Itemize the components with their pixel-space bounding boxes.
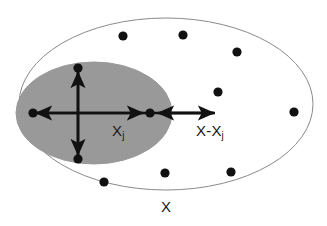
- point-outer-4: [213, 87, 222, 96]
- point-inner-bottom: [73, 154, 82, 163]
- inner-set-label: Xj: [112, 123, 125, 138]
- lbl-diff-subscript: j: [222, 130, 224, 141]
- point-outer-7: [160, 168, 169, 177]
- point-outer-5: [289, 107, 298, 116]
- difference-set-label: X-Xj: [196, 123, 224, 138]
- diagram-container: Xj X-Xj X: [0, 0, 327, 226]
- point-outer-2: [178, 30, 187, 39]
- set-diagram-canvas: [0, 0, 327, 226]
- point-outer-8: [226, 167, 235, 176]
- lbl-inner-subscript: j: [122, 130, 124, 141]
- point-outer-6: [99, 177, 108, 186]
- point-outer-3: [232, 47, 241, 56]
- point-inner-left: [28, 108, 37, 117]
- point-outer-1: [118, 31, 127, 40]
- point-center-xj: [145, 108, 154, 117]
- point-inner-top: [73, 63, 82, 72]
- outer-set-label: X: [161, 199, 171, 214]
